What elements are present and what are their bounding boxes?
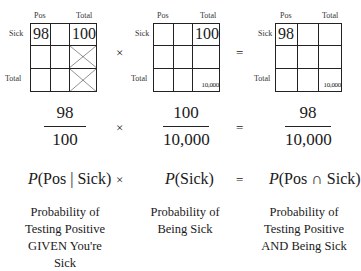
- equals-operator: =: [236, 172, 243, 188]
- description-3: Probability of Testing Positive AND Bein…: [254, 204, 354, 255]
- grid3-cell-total-neg: [298, 69, 320, 91]
- grid3-cell-total-total: 10,000: [319, 69, 341, 91]
- cross-icon: [70, 46, 96, 67]
- grid2-cell-r2-pos: [154, 46, 174, 68]
- times-operator: ×: [116, 120, 123, 136]
- grid2-cell-r2-total: [193, 46, 219, 68]
- grid3-total-value: 10,000: [324, 81, 341, 89]
- fraction-3: 98 10,000: [285, 103, 331, 150]
- grid3-cell-r2-total: [319, 46, 341, 68]
- fraction-1-denominator: 100: [44, 130, 86, 150]
- prob-args: (Pos | Sick): [38, 170, 111, 187]
- grid1-cell-sick-total: 100: [70, 24, 96, 46]
- grid2-cell-total-pos: [154, 69, 174, 91]
- description-line: Testing Positive: [10, 221, 120, 238]
- prob-sick: P(Sick): [165, 170, 214, 188]
- grid3-row-label-total: Total: [254, 74, 270, 83]
- description-line: Testing Positive: [254, 221, 354, 238]
- description-line: Sick: [10, 255, 120, 271]
- grid2-cell-sick-total: 100: [193, 24, 219, 46]
- prob-args: (Pos ∩ Sick): [279, 170, 361, 187]
- prob-symbol: P: [269, 170, 279, 187]
- description-line: Probability of: [254, 204, 354, 221]
- grid1-col-label-total: Total: [76, 11, 92, 20]
- times-operator: ×: [116, 172, 123, 188]
- grid3-col-label-pos: Pos: [280, 11, 292, 20]
- description-line: Probability of: [130, 204, 240, 221]
- times-operator: ×: [116, 45, 123, 61]
- description-1: Probability of Testing Positive GIVEN Yo…: [10, 204, 120, 271]
- grid1-cell-r2-neg: [51, 46, 71, 68]
- fraction-3-denominator: 10,000: [285, 130, 331, 150]
- prob-symbol: P: [165, 170, 175, 187]
- grid1-col-label-pos: Pos: [34, 11, 46, 20]
- fraction-2-numerator: 100: [163, 103, 209, 123]
- cross-icon: [70, 69, 96, 91]
- grid1-cell-sick-pos: 98: [31, 24, 51, 46]
- grid2-cell-sick-neg: [174, 24, 194, 46]
- grid2-table: 100 10,000: [153, 23, 220, 92]
- equals-operator: =: [236, 45, 243, 61]
- fraction-2-denominator: 10,000: [163, 130, 209, 150]
- grid1-row-label-sick: Sick: [9, 29, 23, 38]
- fraction-2: 100 10,000: [163, 103, 209, 150]
- grid3-cell-sick-pos: 98: [276, 24, 298, 46]
- description-2: Probability of Being Sick: [130, 204, 240, 238]
- grid3-cell-sick-neg: [298, 24, 320, 46]
- grid1-cell-sick-neg: [51, 24, 71, 46]
- description-line: Being Sick: [130, 221, 240, 238]
- grid1-crossed-cell: [70, 69, 96, 91]
- equals-operator: =: [236, 120, 243, 136]
- grid3-table: 98 10,000: [275, 23, 342, 92]
- grid2-col-label-pos: Pos: [157, 11, 169, 20]
- fraction-3-numerator: 98: [285, 103, 331, 123]
- grid1-cell-total-pos: [31, 69, 51, 91]
- grid2-cell-sick-pos: [154, 24, 174, 46]
- grid1-table: 98 100: [30, 23, 97, 92]
- grid1-crossed-cell: [70, 46, 96, 68]
- fraction-1-numerator: 98: [44, 103, 86, 123]
- grid1-cell-r2-pos: [31, 46, 51, 68]
- grid2-total-value: 10,000: [202, 81, 219, 89]
- fraction-1: 98 100: [44, 103, 86, 150]
- grid2-cell-total-total: 10,000: [193, 69, 219, 91]
- prob-pos-and-sick: P(Pos ∩ Sick): [269, 170, 361, 188]
- grid3-cell-r2-pos: [276, 46, 298, 68]
- grid2-cell-total-neg: [174, 69, 194, 91]
- prob-symbol: P: [28, 170, 38, 187]
- grid3-row-label-sick: Sick: [258, 29, 272, 38]
- prob-args: (Sick): [175, 170, 214, 187]
- grid1-row-label-total: Total: [5, 74, 21, 83]
- grid3-col-label-total: Total: [322, 11, 338, 20]
- grid2-row-label-sick: Sick: [135, 29, 149, 38]
- description-line: Probability of: [10, 204, 120, 221]
- grid2-col-label-total: Total: [200, 11, 216, 20]
- fraction-bar: [285, 126, 331, 127]
- fraction-bar: [163, 126, 209, 127]
- description-line: GIVEN You're: [10, 238, 120, 255]
- fraction-bar: [44, 126, 86, 127]
- grid3-cell-total-pos: [276, 69, 298, 91]
- grid2-row-label-total: Total: [131, 74, 147, 83]
- grid3-cell-sick-total: [319, 24, 341, 46]
- grid2-cell-r2-neg: [174, 46, 194, 68]
- grid3-cell-r2-neg: [298, 46, 320, 68]
- grid1-cell-total-neg: [51, 69, 71, 91]
- description-line: AND Being Sick: [254, 238, 354, 255]
- prob-pos-given-sick: P(Pos | Sick): [28, 170, 111, 188]
